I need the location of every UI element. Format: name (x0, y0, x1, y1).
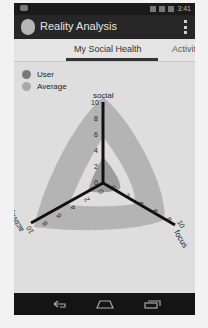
legend-label-average: Average (37, 82, 67, 91)
svg-text:10: 10 (176, 219, 186, 229)
app-title: Reality Analysis (40, 20, 117, 32)
tab-indicator (66, 58, 158, 61)
legend-item-user: User (22, 70, 67, 79)
svg-text:activity: activity (14, 208, 26, 234)
navigation-bar (14, 293, 195, 315)
svg-text:8: 8 (94, 115, 98, 122)
action-bar: Reality Analysis (14, 15, 195, 39)
svg-text:4: 4 (94, 147, 98, 154)
status-time: 3:41 (177, 5, 191, 12)
tab-activity[interactable]: Activity (172, 44, 195, 54)
tab-bar: My Social Health Activity (14, 39, 195, 62)
svg-text:10: 10 (91, 99, 99, 106)
wifi-icon (150, 6, 156, 12)
svg-text:10: 10 (25, 225, 35, 235)
tab-my-social-health[interactable]: My Social Health (74, 44, 142, 54)
svg-text:6: 6 (94, 131, 98, 138)
back-icon[interactable] (52, 299, 68, 309)
recents-icon[interactable] (144, 299, 162, 309)
home-icon[interactable] (96, 299, 114, 309)
battery-icon (168, 6, 174, 12)
signal-icon (159, 6, 165, 12)
svg-text:focus: focus (172, 229, 189, 250)
chart-area: 0 2 4 6 8 10 social 0 2 4 6 8 10 focus 0… (14, 62, 195, 293)
svg-text:2: 2 (94, 163, 98, 170)
overflow-menu-icon[interactable] (184, 20, 187, 34)
average-color-swatch (22, 82, 31, 91)
radar-chart: 0 2 4 6 8 10 social 0 2 4 6 8 10 focus 0… (14, 62, 195, 293)
status-bar: 3:41 (14, 3, 195, 15)
legend-label-user: User (37, 70, 54, 79)
user-color-swatch (22, 70, 31, 79)
notification-icon (20, 5, 28, 11)
legend-item-average: Average (22, 82, 67, 91)
app-icon[interactable] (21, 19, 35, 35)
chart-legend: User Average (22, 70, 67, 94)
svg-text:social: social (93, 91, 114, 100)
phone-screen: 3:41 Reality Analysis My Social Health A… (14, 3, 195, 315)
svg-text:0: 0 (94, 179, 98, 186)
